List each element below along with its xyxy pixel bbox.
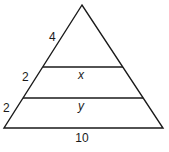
triangle-diagram: 4 2 2 x y 10 <box>0 0 169 152</box>
label-side-bottom: 2 <box>3 101 10 115</box>
label-y: y <box>77 99 85 113</box>
label-side-middle: 2 <box>22 70 29 84</box>
label-side-top: 4 <box>49 30 56 44</box>
label-x: x <box>77 68 85 82</box>
label-base: 10 <box>75 131 89 145</box>
